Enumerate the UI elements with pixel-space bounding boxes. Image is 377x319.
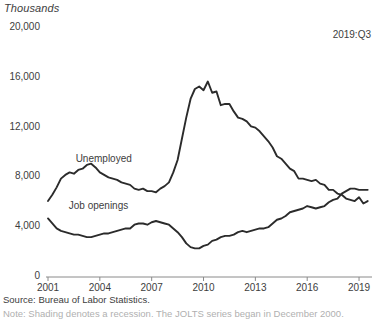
y-axis-tick-label: 0: [0, 270, 40, 281]
source-note: Source: Bureau of Labor Statistics.: [3, 294, 150, 305]
methodology-note: Note: Shading denotes a recession. The J…: [3, 308, 344, 319]
x-axis-tick-label: 2019: [337, 282, 377, 293]
y-axis-tick-label: 20,000: [0, 21, 40, 32]
series-line-job-openings: [48, 189, 368, 249]
y-axis-tick-label: 12,000: [0, 121, 40, 132]
x-axis-tick-label: 2001: [26, 282, 70, 293]
series-label-job-openings: Job openings: [69, 200, 129, 211]
y-axis-tick-label: 4,000: [0, 220, 40, 231]
series-label-unemployed: Unemployed: [76, 153, 132, 164]
x-axis-tick-label: 2004: [78, 282, 122, 293]
y-axis-tick-label: 8,000: [0, 170, 40, 181]
x-axis-tick-label: 2007: [130, 282, 174, 293]
x-axis-tick-label: 2013: [233, 282, 277, 293]
y-axis-tick-label: 16,000: [0, 71, 40, 82]
x-axis-tick-label: 2010: [182, 282, 226, 293]
series-line-unemployed: [48, 82, 368, 204]
x-axis-tick-label: 2016: [285, 282, 329, 293]
